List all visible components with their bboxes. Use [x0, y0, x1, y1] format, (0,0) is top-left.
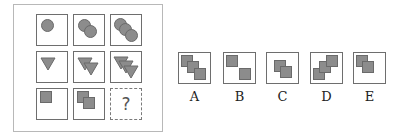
square-icon [362, 61, 374, 73]
option-a-label[interactable]: A [178, 89, 211, 104]
triangle-down-icon [123, 65, 139, 79]
option-d[interactable] [310, 52, 343, 84]
grid-cell-r1c3 [110, 14, 142, 46]
square-icon [83, 97, 95, 109]
circle-icon [84, 25, 97, 38]
option-b-label[interactable]: B [223, 89, 256, 104]
circle-icon [125, 29, 138, 42]
option-d-label[interactable]: D [310, 89, 343, 104]
option-c-label[interactable]: C [266, 89, 299, 104]
square-icon [239, 68, 251, 80]
option-e-label[interactable]: E [353, 89, 386, 104]
square-icon [280, 66, 292, 78]
circle-icon [41, 19, 54, 32]
grid-cell-r3c2 [73, 88, 105, 120]
option-e[interactable] [353, 52, 386, 84]
triangle-down-icon [83, 62, 99, 76]
option-a[interactable] [178, 52, 211, 84]
grid-cell-r2c1 [36, 51, 68, 83]
grid-cell-r2c2 [73, 51, 105, 83]
square-icon [40, 91, 52, 103]
grid-cell-r1c2 [73, 14, 105, 46]
grid-cell-r2c3 [110, 51, 142, 83]
grid-cell-r3c3-missing: ? [110, 88, 142, 120]
grid-cell-r3c1 [36, 88, 68, 120]
grid-cell-r1c1 [36, 14, 68, 46]
square-icon [326, 55, 338, 67]
triangle-down-icon [40, 57, 56, 71]
option-b[interactable] [223, 52, 256, 84]
square-icon [226, 55, 238, 67]
square-icon [194, 68, 206, 80]
question-mark: ? [111, 89, 141, 119]
option-c[interactable] [266, 52, 299, 84]
